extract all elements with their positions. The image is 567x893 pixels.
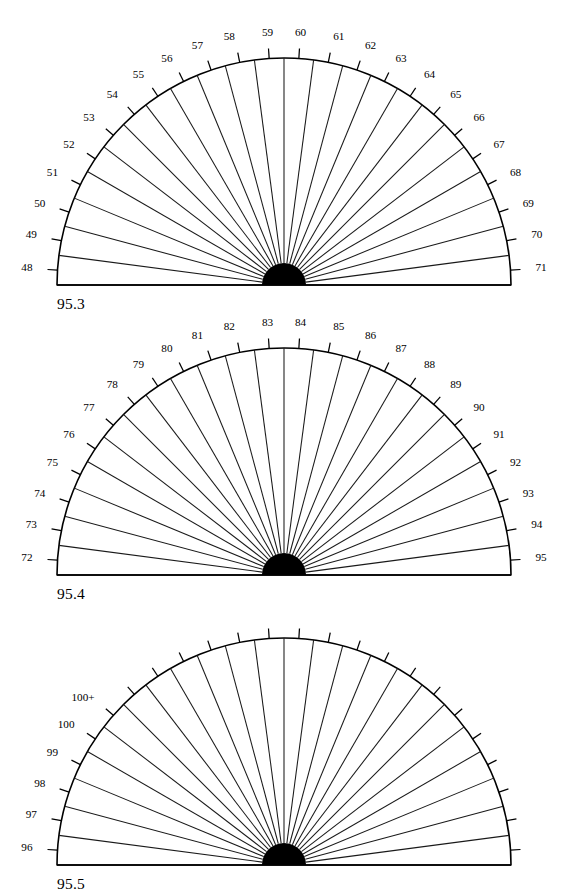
sector-tick [299, 339, 300, 349]
sector-label: 67 [494, 138, 506, 150]
chart-caption-2: 95.4 [57, 585, 85, 603]
sector-tick [410, 378, 416, 386]
fan-group-3: 96979899100100+ [21, 629, 520, 865]
sector-tick [71, 470, 80, 474]
sector-label: 77 [83, 401, 95, 413]
sector-label: 94 [531, 518, 543, 530]
sector-tick [60, 789, 69, 792]
sector-label: 80 [161, 342, 173, 354]
sector-tick [106, 129, 114, 136]
sector-tick [507, 819, 517, 821]
sector-label: 98 [34, 777, 46, 789]
sector-tick [511, 269, 521, 270]
sector-label: 76 [63, 428, 75, 440]
sector-label: 93 [523, 487, 535, 499]
sector-label: 65 [450, 88, 462, 100]
sector-tick [71, 760, 80, 764]
sector-label: 100+ [71, 691, 94, 703]
chart-caption-3: 95.5 [57, 875, 85, 893]
sector-tick [52, 819, 62, 821]
sector-tick [87, 153, 95, 159]
sector-label: 61 [333, 30, 344, 42]
sector-label: 82 [224, 320, 235, 332]
sector-tick [208, 641, 211, 650]
sector-label: 51 [47, 166, 58, 178]
sector-tick [60, 209, 69, 212]
sector-tick [499, 499, 508, 502]
chart-caption-1: 95.3 [57, 295, 85, 313]
sector-tick [52, 239, 62, 241]
sector-label: 96 [21, 841, 33, 853]
sector-tick [208, 351, 211, 360]
sector-label: 49 [26, 228, 38, 240]
sector-tick [434, 397, 441, 405]
sector-tick [473, 733, 481, 739]
sector-tick [128, 397, 135, 405]
sector-label: 79 [133, 358, 145, 370]
sector-tick [410, 668, 416, 676]
sector-tick [473, 443, 481, 449]
sector-tick [488, 180, 497, 184]
sector-tick [455, 129, 463, 136]
sector-tick [179, 72, 183, 81]
sector-label: 63 [395, 52, 407, 64]
sector-label: 92 [510, 456, 521, 468]
sector-label: 97 [26, 808, 38, 820]
sector-tick [87, 733, 95, 739]
sector-label: 71 [535, 261, 546, 273]
sector-tick [299, 629, 300, 639]
sector-tick [299, 49, 300, 59]
fan-group-2: 7273747576777879808182838485868788899091… [21, 316, 547, 575]
sector-tick [511, 559, 521, 560]
sector-label: 53 [83, 111, 95, 123]
sector-label: 73 [26, 518, 38, 530]
sector-tick [238, 633, 240, 643]
sector-tick [128, 107, 135, 115]
sector-label: 85 [333, 320, 345, 332]
sector-tick [152, 378, 158, 386]
sector-tick [455, 419, 463, 426]
sector-tick [473, 153, 481, 159]
sector-label: 58 [224, 30, 236, 42]
sector-label: 60 [295, 26, 307, 38]
sector-label: 59 [262, 26, 274, 38]
sector-tick [268, 339, 269, 349]
sector-tick [507, 529, 517, 531]
sector-label: 50 [34, 197, 46, 209]
sector-tick [48, 849, 58, 850]
sector-tick [357, 351, 360, 360]
sector-tick [499, 789, 508, 792]
sector-tick [48, 269, 58, 270]
sector-tick [357, 61, 360, 70]
sector-tick [357, 641, 360, 650]
sector-label: 83 [262, 316, 274, 328]
sector-label: 68 [510, 166, 522, 178]
sector-tick [179, 362, 183, 371]
sector-tick [128, 687, 135, 695]
sector-label: 95 [535, 551, 547, 563]
sector-tick [434, 687, 441, 695]
sector-label: 56 [161, 52, 173, 64]
sector-tick [106, 419, 114, 426]
sector-label: 66 [473, 111, 485, 123]
sector-label: 87 [395, 342, 407, 354]
sector-tick [328, 633, 330, 643]
sector-tick [52, 529, 62, 531]
sector-tick [238, 343, 240, 353]
sector-tick [152, 668, 158, 676]
sector-label: 90 [473, 401, 485, 413]
sector-label: 64 [424, 68, 436, 80]
sector-label: 55 [133, 68, 145, 80]
sector-tick [48, 559, 58, 560]
sector-label: 57 [192, 39, 204, 51]
sector-label: 88 [424, 358, 436, 370]
sector-label: 81 [192, 329, 203, 341]
sector-tick [328, 53, 330, 63]
sector-tick [179, 652, 183, 661]
sector-label: 75 [47, 456, 59, 468]
sector-label: 99 [47, 746, 59, 758]
fan-group-1: 4849505152535455565758596061626364656667… [21, 26, 546, 285]
sector-tick [488, 470, 497, 474]
sector-tick [87, 443, 95, 449]
